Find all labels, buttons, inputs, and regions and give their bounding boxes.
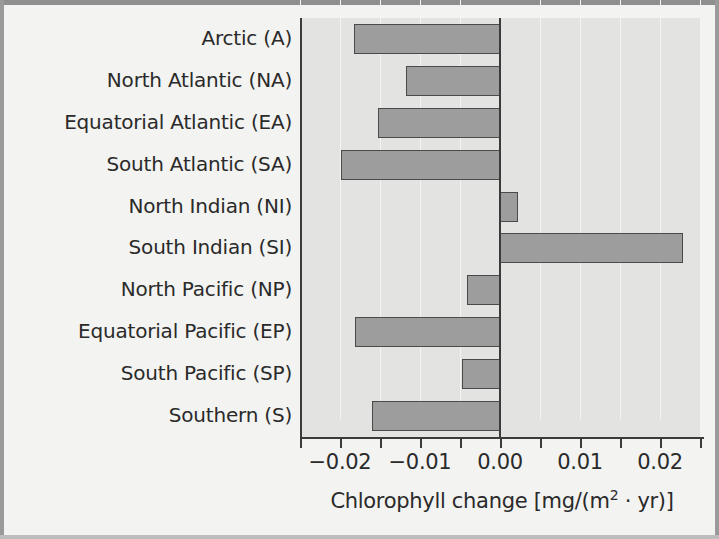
bar — [467, 275, 500, 305]
x-axis-tick — [660, 439, 662, 448]
zero-reference-line — [499, 18, 501, 439]
page-frame-bottom — [0, 535, 719, 539]
x-axis-tick-label: 0.00 — [477, 450, 523, 474]
bar — [406, 66, 500, 96]
x-axis-tick-label: −0.02 — [309, 450, 372, 474]
figure-page: Arctic (A)North Atlantic (NA)Equatorial … — [0, 0, 719, 539]
x-axis-tick — [300, 439, 302, 448]
bar — [500, 233, 683, 263]
category-label: South Pacific (SP) — [0, 361, 292, 385]
x-axis-tick-label: 0.02 — [637, 450, 683, 474]
x-axis-tick — [460, 439, 462, 448]
gridline — [420, 0, 421, 419]
y-axis-line — [300, 18, 302, 440]
gridline — [540, 0, 541, 419]
gridline — [580, 0, 581, 419]
bar — [462, 359, 500, 389]
x-axis-title-exponent: 2 — [610, 487, 619, 503]
category-label: Equatorial Atlantic (EA) — [0, 110, 292, 134]
category-label: Equatorial Pacific (EP) — [0, 319, 292, 343]
category-label: North Indian (NI) — [0, 194, 292, 218]
category-label: North Atlantic (NA) — [0, 68, 292, 92]
x-axis-tick — [540, 439, 542, 448]
x-axis-tick — [580, 439, 582, 448]
x-axis-title-suffix: · yr)] — [618, 489, 673, 513]
bar — [372, 401, 500, 431]
category-label: South Atlantic (SA) — [0, 152, 292, 176]
gridline — [460, 0, 461, 419]
x-axis-tick — [700, 439, 702, 448]
gridline — [380, 0, 381, 419]
category-label: Southern (S) — [0, 403, 292, 427]
bar — [355, 317, 500, 347]
gridline — [660, 0, 661, 419]
category-label: South Indian (SI) — [0, 235, 292, 259]
x-axis-tick — [340, 439, 342, 448]
x-axis-line — [300, 437, 704, 439]
x-axis-title-prefix: Chlorophyll change [mg/(m — [330, 489, 609, 513]
category-label: Arctic (A) — [0, 26, 292, 50]
x-axis-tick — [620, 439, 622, 448]
bar — [500, 192, 518, 222]
gridline — [340, 0, 341, 419]
x-axis-tick — [500, 439, 502, 448]
x-axis-tick — [420, 439, 422, 448]
x-axis-title: Chlorophyll change [mg/(m2 · yr)] — [300, 487, 704, 513]
category-label: North Pacific (NP) — [0, 277, 292, 301]
page-frame-right — [715, 0, 719, 539]
x-axis-tick — [380, 439, 382, 448]
bar — [341, 150, 500, 180]
x-axis-tick-label: −0.01 — [389, 450, 452, 474]
bar — [354, 24, 500, 54]
y-axis-category-labels: Arctic (A)North Atlantic (NA)Equatorial … — [0, 0, 292, 439]
gridline — [700, 0, 701, 419]
bar — [378, 108, 500, 138]
x-axis-tick-label: 0.01 — [557, 450, 603, 474]
gridline — [620, 0, 621, 419]
